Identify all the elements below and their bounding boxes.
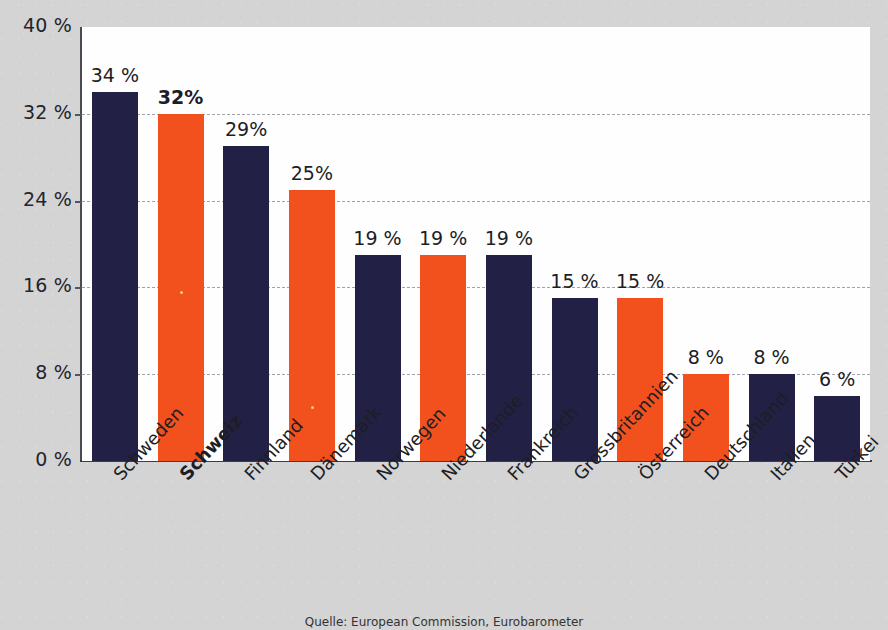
y-axis-tick	[75, 374, 82, 376]
y-axis-tick-label: 0 %	[35, 448, 72, 470]
bar-value-label: 25%	[277, 162, 347, 184]
bar-value-label: 19 %	[474, 227, 544, 249]
y-axis-tick-label: 32 %	[23, 101, 72, 123]
bar-value-label: 15 %	[540, 270, 610, 292]
print-speck	[180, 291, 183, 294]
bar-value-label: 8 %	[671, 346, 741, 368]
bar-value-label: 19 %	[343, 227, 413, 249]
bar-value-label: 15 %	[605, 270, 675, 292]
bar-value-label: 34 %	[80, 64, 150, 86]
print-speck	[311, 406, 314, 409]
bar-value-label: 19 %	[408, 227, 478, 249]
y-axis-tick	[75, 287, 82, 289]
bar-value-label: 29%	[211, 118, 281, 140]
source-note: Quelle: European Commission, Eurobaromet…	[0, 615, 888, 629]
y-axis-tick-label: 24 %	[23, 188, 72, 210]
y-axis-tick-label: 40 %	[23, 14, 72, 36]
y-axis-tick-labels: 0 %8 %16 %24 %32 %40 %	[0, 0, 72, 630]
y-axis-tick	[75, 201, 82, 203]
bar-value-label: 8 %	[737, 346, 807, 368]
y-axis-tick-label: 16 %	[23, 274, 72, 296]
bar	[92, 92, 138, 461]
bar-chart: 0 %8 %16 %24 %32 %40 % 34 %32%29%25%19 %…	[0, 0, 888, 630]
bar-value-label: 6 %	[802, 368, 872, 390]
y-axis-tick-label: 8 %	[35, 361, 72, 383]
bar-value-label: 32%	[146, 86, 216, 108]
y-axis-tick	[75, 114, 82, 116]
